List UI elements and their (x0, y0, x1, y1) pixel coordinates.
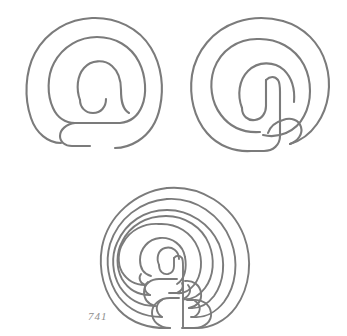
labyrinth-center-curl (242, 80, 266, 120)
labyrinth-seven-circuit-cretan-svg (95, 180, 260, 335)
labyrinth-wall-3 (78, 61, 129, 113)
labyrinth-ring-6-right (177, 257, 186, 284)
labyrinth-center-curl (159, 258, 174, 274)
figure-labyrinth-top-left (12, 10, 172, 160)
labyrinth-wall-2-left (211, 39, 260, 132)
labyrinth-lobe-left-inner3 (140, 274, 145, 285)
figure-labyrinth-top-right (180, 10, 340, 160)
labyrinth-lobe-left-outer (152, 298, 179, 328)
labyrinth-core-arch (80, 99, 106, 113)
figure-caption-number: 741 (88, 310, 108, 322)
labyrinth-wall-2-hook (60, 123, 90, 146)
labyrinth-three-circuit-open-svg (12, 10, 172, 160)
scanned-page: 741 (0, 0, 347, 336)
figure-labyrinth-bottom (95, 180, 260, 335)
labyrinth-right-hook (268, 119, 301, 144)
labyrinth-ring-5-left (119, 224, 159, 285)
labyrinth-wall-2 (49, 37, 146, 123)
labyrinth-three-circuit-closed-svg (180, 10, 340, 160)
labyrinth-left-tail (263, 133, 286, 136)
labyrinth-outer-wall-right (283, 21, 329, 144)
